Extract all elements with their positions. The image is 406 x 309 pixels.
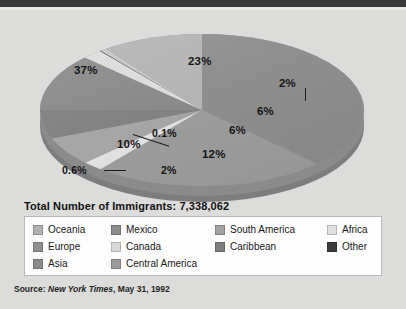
legend: OceaniaEuropeAsiaMexicoCanadaCentral Ame… [24,216,382,276]
slice-label-canada: 2% [161,164,177,176]
slice-label-africa: 2% [279,77,296,89]
top-dark-band [0,0,406,7]
slice-label-other: 0.1% [152,127,177,139]
legend-item-central-america[interactable]: Central America [111,255,215,272]
legend-swatch-icon [215,242,225,252]
figure-root: 23% 37% 2% 6% 6% 12% 10% 0.1% 0.6% 2% To… [0,0,406,309]
slice-label-mexico: 12% [202,148,226,160]
legend-swatch-icon [327,225,337,235]
legend-swatch-icon [33,225,43,235]
legend-swatch-icon [33,242,43,252]
slice-label-oceania: 0.6% [62,164,87,176]
legend-item-label: Oceania [48,224,85,235]
legend-item-label: Canada [126,241,161,252]
leader-line-africa [305,88,306,101]
leader-line-oceania [104,170,126,171]
slice-label-caribbean: 6% [257,105,274,117]
legend-item-label: South America [230,224,295,235]
legend-item-label: Asia [48,258,67,269]
legend-item-label: Africa [342,224,368,235]
legend-swatch-icon [111,225,121,235]
slice-label-south-america: 6% [229,124,246,136]
legend-swatch-icon [327,242,337,252]
legend-item-mexico[interactable]: Mexico [111,221,215,238]
legend-item-other[interactable]: Other [327,238,391,255]
pie-stage: 23% 37% 2% 6% 6% 12% 10% 0.1% 0.6% 2% [14,12,392,202]
legend-grid: OceaniaEuropeAsiaMexicoCanadaCentral Ame… [33,221,377,273]
legend-swatch-icon [33,259,43,269]
source-publication: New York Times [48,284,113,294]
legend-swatch-icon [111,242,121,252]
legend-item-africa[interactable]: Africa [327,221,391,238]
legend-item-label: Mexico [126,224,158,235]
legend-swatch-icon [111,259,121,269]
legend-item-europe[interactable]: Europe [33,238,111,255]
legend-item-label: Caribbean [230,241,276,252]
legend-item-canada[interactable]: Canada [111,238,215,255]
legend-item-asia[interactable]: Asia [33,255,111,272]
legend-item-south-america[interactable]: South America [215,221,327,238]
source-date: , May 31, 1992 [113,284,170,294]
slice-label-central-america: 10% [117,138,141,150]
legend-item-caribbean[interactable]: Caribbean [215,238,327,255]
legend-item-label: Central America [126,258,197,269]
legend-item-label: Other [342,241,367,252]
pie-chart: 23% 37% 2% 6% 6% 12% 10% 0.1% 0.6% 2% [14,12,392,202]
slice-label-europe: 23% [188,55,212,67]
source-note: Source: New York Times, May 31, 1992 [14,284,170,294]
legend-swatch-icon [215,225,225,235]
page-title: Total Number of Immigrants: 7,338,062 [24,200,229,212]
slice-label-asia: 37% [74,64,98,76]
source-prefix: Source: [14,284,46,294]
legend-item-oceania[interactable]: Oceania [33,221,111,238]
legend-item-label: Europe [48,241,80,252]
